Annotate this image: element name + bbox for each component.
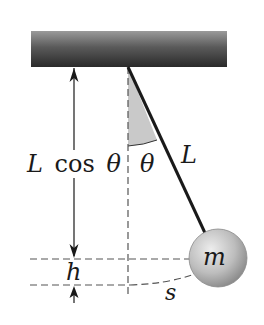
label-angle-theta: θ — [140, 150, 155, 178]
label-l-cos-theta: L cos θ — [26, 150, 121, 178]
label-length: L — [180, 141, 197, 169]
label-height: h — [66, 258, 81, 286]
label-mass: m — [203, 243, 226, 271]
pendulum-diagram: L cos θ θ L h s m — [0, 0, 264, 325]
ceiling-support — [31, 31, 227, 67]
label-arc: s — [165, 280, 176, 305]
arc-path — [130, 275, 192, 285]
